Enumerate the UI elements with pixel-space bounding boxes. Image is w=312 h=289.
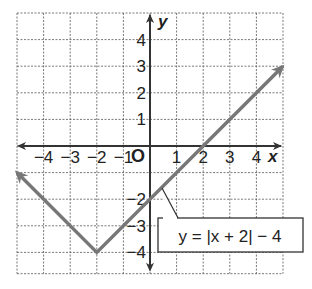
x-tick-label: 3: [225, 148, 234, 167]
x-tick-label: 1: [172, 148, 181, 167]
y-tick-label: 4: [137, 31, 146, 50]
y-tick-label: 3: [137, 57, 146, 76]
y-tick-label: −4: [127, 243, 146, 262]
y-tick-label: 2: [137, 84, 146, 103]
x-tick-label: 4: [252, 148, 261, 167]
x-axis-label: x: [267, 147, 279, 166]
origin-label: O: [131, 146, 145, 166]
x-tick-label: −2: [87, 148, 106, 167]
equation-callout: y = |x + 2| − 4: [158, 188, 303, 252]
x-tick-label: −3: [61, 148, 80, 167]
y-tick-label: 1: [137, 110, 146, 129]
equation-label: y = |x + 2| − 4: [179, 227, 282, 246]
x-tick-label: −4: [34, 148, 53, 167]
y-axis-label: y: [157, 12, 169, 31]
graph: −4−3−2−112344321−2−3−4 y = |x + 2| − 4 y…: [0, 0, 312, 289]
